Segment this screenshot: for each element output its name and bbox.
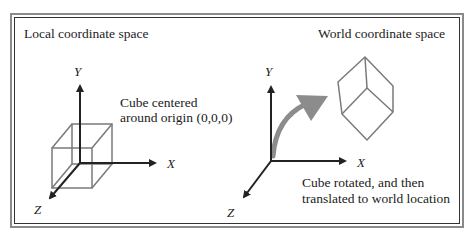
world-caption-line1: Cube rotated, and then — [302, 175, 424, 190]
local-caption-line1: Cube centered — [120, 95, 198, 110]
world-z-label: Z — [227, 205, 235, 220]
local-cube — [52, 124, 112, 188]
world-panel-title: World coordinate space — [318, 26, 445, 41]
local-caption-line2: around origin (0,0,0) — [120, 110, 232, 125]
world-z-axis — [244, 161, 271, 197]
world-coordinate-panel: World coordinate space Y X Z Cube rotate… — [227, 26, 450, 220]
local-z-axis — [50, 163, 80, 198]
world-x-label: X — [356, 155, 366, 170]
local-panel-title: Local coordinate space — [24, 26, 148, 41]
local-y-label: Y — [74, 64, 83, 79]
transform-arrow — [273, 95, 328, 156]
coordinate-space-diagram: Local coordinate space Y X Z Cube center… — [0, 0, 473, 238]
local-x-label: X — [166, 156, 176, 171]
local-z-label: Z — [34, 202, 42, 217]
local-coordinate-panel: Local coordinate space Y X Z Cube center… — [24, 26, 232, 217]
world-y-label: Y — [265, 64, 274, 79]
world-caption-line2: translated to world location — [302, 191, 450, 206]
world-cube — [338, 57, 393, 140]
